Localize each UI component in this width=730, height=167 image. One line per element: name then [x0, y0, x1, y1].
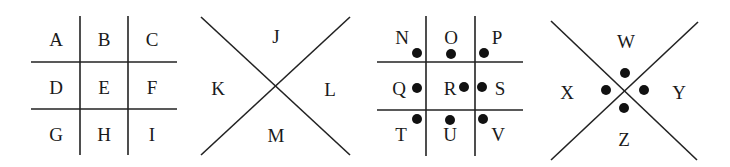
- letter-g: G: [49, 124, 63, 145]
- dot: [619, 103, 629, 113]
- letter-f: F: [147, 77, 158, 98]
- letter-e: E: [98, 77, 110, 98]
- dot: [459, 82, 469, 92]
- dot: [412, 114, 422, 124]
- pigpen-key-diagram: A B C D E F G H I J K L M N O P Q R S T …: [0, 0, 730, 167]
- letter-d: D: [49, 77, 63, 98]
- letter-x: X: [560, 82, 574, 103]
- dot: [620, 68, 630, 78]
- letter-r: R: [444, 78, 457, 99]
- letter-o: O: [444, 27, 458, 48]
- letter-l: L: [324, 79, 336, 100]
- letter-u: U: [443, 124, 457, 145]
- x-2: W X Y Z: [551, 21, 698, 160]
- letter-b: B: [98, 29, 111, 50]
- letter-w: W: [617, 31, 635, 52]
- letter-i: I: [149, 124, 155, 145]
- letter-j: J: [272, 26, 279, 47]
- dot: [478, 114, 488, 124]
- grid-1: A B C D E F G H I: [31, 16, 177, 155]
- dot: [477, 82, 487, 92]
- letter-p: P: [492, 27, 503, 48]
- letter-h: H: [97, 124, 111, 145]
- dot: [445, 115, 455, 125]
- dot: [639, 85, 649, 95]
- letter-k: K: [211, 78, 225, 99]
- dot: [446, 49, 456, 59]
- x-1: J K L M: [201, 17, 350, 155]
- letter-s: S: [495, 78, 506, 99]
- letter-v: V: [491, 124, 505, 145]
- letter-y: Y: [672, 82, 686, 103]
- dot: [412, 48, 422, 58]
- letter-a: A: [49, 29, 63, 50]
- letter-q: Q: [392, 78, 406, 99]
- letter-n: N: [395, 27, 409, 48]
- dot: [479, 48, 489, 58]
- dot: [412, 83, 422, 93]
- letter-c: C: [146, 29, 159, 50]
- grid-2: N O P Q R S T U V: [377, 16, 523, 156]
- letter-m: M: [268, 125, 285, 146]
- letter-z: Z: [618, 129, 630, 150]
- letter-t: T: [395, 124, 407, 145]
- dot: [601, 85, 611, 95]
